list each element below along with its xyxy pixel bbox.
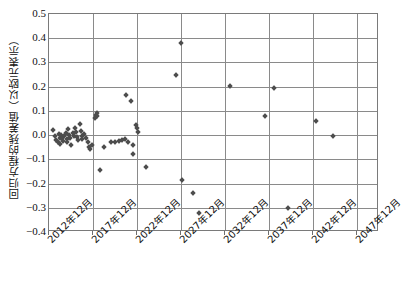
data-point — [51, 127, 57, 133]
gridline-horizontal — [49, 38, 377, 39]
gridline-horizontal — [49, 62, 377, 63]
y-tick-label: −0.4 — [20, 226, 46, 237]
data-point — [131, 151, 137, 157]
data-point — [262, 113, 268, 119]
data-point — [286, 205, 292, 211]
gridline-vertical — [225, 14, 226, 230]
gridline-vertical — [137, 14, 138, 230]
y-tick-label: −0.3 — [20, 201, 46, 212]
gridline-vertical — [181, 14, 182, 230]
y-tick-label: 0.4 — [20, 32, 46, 43]
gridline-vertical — [93, 14, 94, 230]
y-tick-label: 0.5 — [20, 8, 46, 19]
data-point — [124, 92, 130, 98]
data-point — [173, 72, 179, 78]
data-point — [89, 142, 95, 148]
data-point — [102, 144, 108, 150]
y-tick-label: −0.2 — [20, 177, 46, 188]
gridline-vertical — [357, 14, 358, 230]
y-tick-label: 0.1 — [20, 104, 46, 115]
y-tick-label: 0.2 — [20, 80, 46, 91]
data-point — [178, 40, 184, 46]
y-tick-label: 0.0 — [20, 129, 46, 140]
data-point — [143, 164, 149, 170]
gridline-vertical — [269, 14, 270, 230]
data-point — [128, 98, 134, 104]
gridline-horizontal — [49, 87, 377, 88]
data-point — [179, 177, 185, 183]
gridline-horizontal — [49, 159, 377, 160]
data-point — [190, 190, 196, 196]
plot-area — [48, 13, 378, 231]
data-point — [227, 83, 233, 89]
y-axis-ticks: 0.50.40.30.20.10.0−0.1−0.2−0.3−0.4 — [14, 0, 46, 289]
gridline-horizontal — [49, 135, 377, 136]
data-point — [77, 121, 83, 127]
data-point — [130, 142, 136, 148]
data-point — [68, 142, 74, 148]
gridline-horizontal — [49, 184, 377, 185]
data-point — [271, 85, 277, 91]
data-point — [97, 167, 103, 173]
y-tick-label: −0.1 — [20, 153, 46, 164]
y-tick-label: 0.3 — [20, 56, 46, 67]
data-point — [95, 113, 101, 119]
data-point — [330, 133, 336, 139]
